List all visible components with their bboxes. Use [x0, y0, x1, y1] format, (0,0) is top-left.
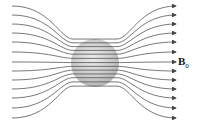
sphere	[71, 39, 119, 87]
field-line	[12, 6, 176, 39]
field-lines-diagram	[0, 0, 200, 127]
b0-label: B0	[178, 55, 189, 70]
field-line	[12, 86, 176, 118]
